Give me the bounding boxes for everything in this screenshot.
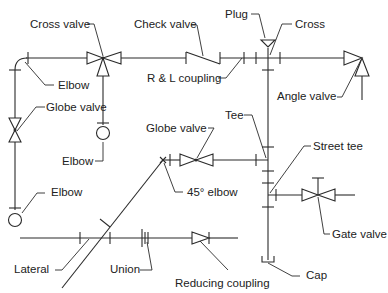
piping-diagram: Cross valve Check valve Plug Cross Elbow… <box>0 0 388 293</box>
label-cross-valve: Cross valve <box>30 19 90 31</box>
label-angle-valve: Angle valve <box>277 91 336 103</box>
label-union: Union <box>110 264 140 276</box>
reducing-coupling-icon <box>192 232 238 244</box>
label-reducing-coupling: Reducing coupling <box>175 278 270 290</box>
label-globe-valve-left: Globe valve <box>46 102 107 114</box>
label-globe-valve-mid: Globe valve <box>146 123 207 135</box>
elbow-mid-icon <box>97 123 110 140</box>
label-cap: Cap <box>306 270 327 282</box>
label-plug: Plug <box>225 9 248 21</box>
gate-valve-icon <box>302 178 355 201</box>
label-elbow-mid: Elbow <box>62 156 93 168</box>
label-elbow-top: Elbow <box>58 80 89 92</box>
label-rl-coupling: R & L coupling <box>147 73 221 85</box>
label-tee: Tee <box>225 110 244 122</box>
plug-icon <box>261 40 275 47</box>
globe-valve-left-icon <box>9 118 21 142</box>
label-lateral: Lateral <box>14 264 49 276</box>
elbow-top-left-icon <box>9 52 28 70</box>
label-elbow-45: 45° elbow <box>187 187 238 199</box>
label-gate-valve: Gate valve <box>332 229 387 241</box>
label-street-tee: Street tee <box>313 141 363 153</box>
label-cross: Cross <box>295 19 325 31</box>
globe-valve-mid-icon <box>180 154 213 166</box>
label-elbow-bottom: Elbow <box>51 187 82 199</box>
label-check-valve: Check valve <box>134 19 197 31</box>
cross-valve-icon <box>87 52 121 76</box>
angle-valve-icon <box>344 51 369 100</box>
diagonal-tick <box>100 219 110 227</box>
elbow-bottom-left-icon <box>9 208 22 227</box>
